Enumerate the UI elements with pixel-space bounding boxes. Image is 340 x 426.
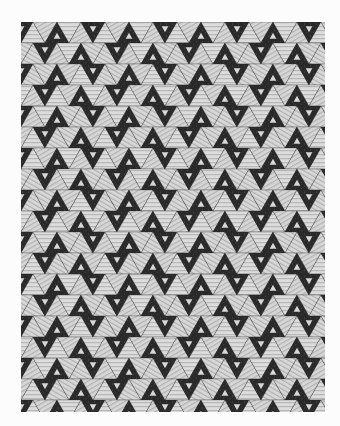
photograph	[0, 0, 340, 426]
quilt-pattern	[21, 22, 325, 412]
quilt	[21, 22, 325, 412]
